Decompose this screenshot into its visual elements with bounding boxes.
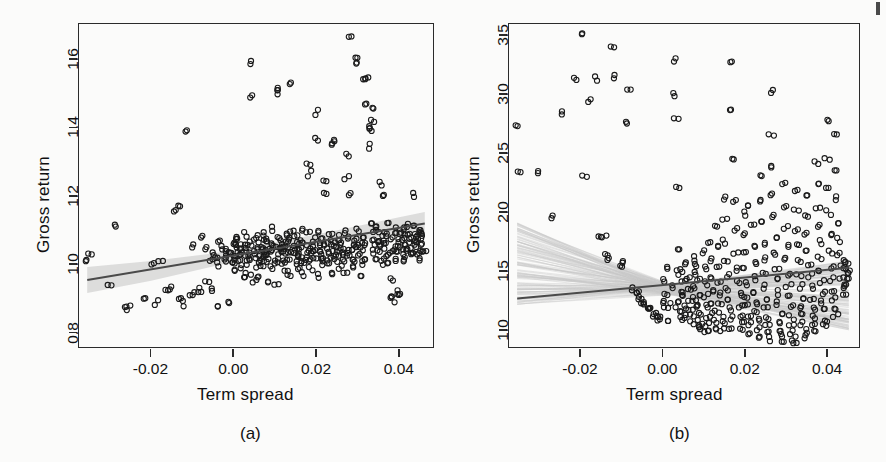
- x-tick-mark: [232, 349, 234, 357]
- y-tick-label: 3.5: [494, 9, 512, 61]
- panel-a: Gross return -0.020.000.020.040.81.01.21…: [0, 0, 455, 462]
- y-tick-label: 0.8: [64, 307, 82, 359]
- panel-b-scatter-canvas: [509, 24, 859, 347]
- x-tick-label: 0.00: [203, 360, 263, 378]
- y-tick-label: 2.5: [494, 127, 512, 179]
- panel-b: Gross return -0.020.000.020.041.01.52.02…: [431, 0, 886, 462]
- x-tick-mark: [826, 349, 828, 357]
- x-tick-label: 0.00: [632, 360, 692, 378]
- y-tick-label: 1.5: [494, 245, 512, 297]
- x-tick-mark: [662, 349, 664, 357]
- y-tick-label: 1.6: [64, 33, 82, 85]
- x-tick-label: -0.02: [550, 360, 610, 378]
- x-tick-mark: [398, 349, 400, 357]
- x-tick-label: -0.02: [120, 360, 180, 378]
- y-tick-label: 1.0: [64, 238, 82, 290]
- panel-a-scatter-canvas: [79, 24, 433, 347]
- figure-scatter-panels: Gross return -0.020.000.020.040.81.01.21…: [0, 0, 886, 462]
- y-tick-label: 3.0: [494, 68, 512, 120]
- x-tick-label: 0.04: [797, 360, 857, 378]
- panel-b-caption: (b): [669, 424, 690, 444]
- y-tick-label: 1.0: [494, 304, 512, 356]
- panel-a-caption: (a): [240, 424, 261, 444]
- panel-b-x-axis-title: Term spread: [626, 385, 723, 405]
- x-tick-mark: [150, 349, 152, 357]
- x-tick-mark: [579, 349, 581, 357]
- x-tick-mark: [315, 349, 317, 357]
- x-tick-label: 0.02: [286, 360, 346, 378]
- panel-a-y-axis-title: Gross return: [34, 156, 54, 253]
- panel-b-y-axis-title: Gross return: [464, 156, 484, 253]
- y-tick-label: 1.4: [64, 101, 82, 153]
- y-tick-label: 2.0: [494, 186, 512, 238]
- x-tick-label: 0.02: [715, 360, 775, 378]
- x-tick-label: 0.04: [369, 360, 429, 378]
- panel-a-plot-area: [78, 23, 434, 348]
- panel-a-x-axis-title: Term spread: [197, 385, 294, 405]
- scan-artifact-mark: [876, 2, 880, 15]
- x-tick-mark: [744, 349, 746, 357]
- y-tick-label: 1.2: [64, 170, 82, 222]
- panel-b-plot-area: [508, 23, 860, 348]
